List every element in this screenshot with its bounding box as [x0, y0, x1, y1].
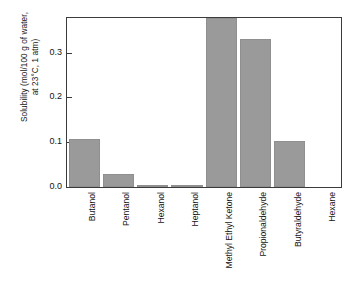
bar-heptanol	[171, 185, 202, 187]
plot-inner	[67, 18, 341, 187]
y-axis-tick-label: 0.1	[22, 136, 62, 146]
y-axis-tick-mark	[67, 97, 72, 98]
x-axis-tick-label: Pentanol	[121, 192, 135, 226]
plot-area	[66, 17, 342, 188]
x-axis-tick-label: Butyraldehyde	[293, 192, 307, 247]
y-axis-title-line-1: Solubility (mol/100 g of water,	[20, 0, 31, 147]
bar-hexanol	[137, 185, 168, 187]
bar-butyraldehyde	[274, 141, 305, 187]
bar-pentanol	[103, 174, 134, 187]
y-axis-title-line-2: at 23°C, 1 atm)	[31, 0, 42, 147]
y-axis-tick-label: 0.0	[22, 181, 62, 191]
y-axis-title: Solubility (mol/100 g of water, at 23°C,…	[20, 0, 50, 147]
x-axis-tick-label: Propionaldehyde	[258, 192, 272, 257]
x-axis-tick-label: Butanol	[87, 192, 101, 221]
bar-propionaldehyde	[240, 39, 271, 187]
x-axis-tick-label: Methyl Ethyl Ketone	[224, 192, 238, 268]
y-axis-tick-mark	[67, 53, 72, 54]
y-axis-tick-label: 0.2	[22, 91, 62, 101]
x-axis-tick-label: Heptanol	[190, 192, 204, 226]
x-axis-tick-label: Hexanol	[156, 192, 170, 224]
x-axis-tick-label: Hexane	[327, 192, 341, 222]
y-axis-tick-label: 0.3	[22, 47, 62, 57]
bar-butanol	[69, 139, 100, 187]
bar-methyl-ethyl-ketone	[206, 18, 237, 187]
chart-figure: Solubility (mol/100 g of water, at 23°C,…	[0, 0, 359, 291]
